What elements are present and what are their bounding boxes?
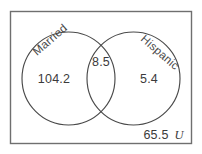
value-married-only: 104.2 [38, 72, 70, 86]
venn-diagram-canvas: Married Hispanic 104.2 8.5 5.4 65.5 U [0, 0, 202, 154]
value-hispanic-only: 5.4 [140, 72, 158, 86]
value-intersection: 8.5 [92, 55, 110, 69]
venn-diagram-screenshot: Married Hispanic 104.2 8.5 5.4 65.5 U [0, 0, 202, 154]
value-universe-outside: 65.5 [143, 128, 168, 142]
universal-set-symbol: U [174, 128, 184, 142]
